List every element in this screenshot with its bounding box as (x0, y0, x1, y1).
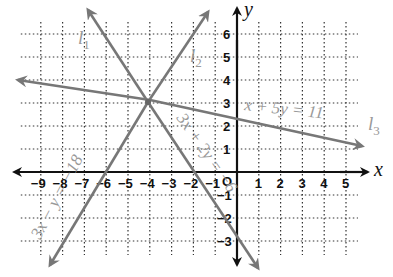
x-tick-label: 1 (255, 176, 262, 191)
line-l1 (88, 10, 148, 102)
x-tick-label: 4 (320, 176, 328, 191)
y-tick-label: 1 (223, 142, 230, 157)
x-tick-label: −4 (140, 176, 156, 191)
x-axis-label: x (373, 158, 383, 180)
y-tick-label: 2 (223, 119, 230, 134)
x-tick-label: −3 (162, 176, 177, 191)
x-tick-label: 5 (342, 176, 349, 191)
label-l2: l2 (190, 45, 202, 70)
y-axis-label: y (242, 0, 253, 21)
x-tick-label: 2 (277, 176, 284, 191)
x-tick-label: −9 (31, 176, 46, 191)
x-tick-label: −2 (183, 176, 198, 191)
x-tick-label: 3 (298, 176, 305, 191)
y-tick-label: 4 (223, 73, 231, 88)
y-tick-label: 6 (223, 27, 230, 42)
y-tick-label: −3 (217, 234, 232, 249)
equation-l3: x + 5y = 11 (243, 95, 325, 122)
x-tick-label: −5 (118, 176, 133, 191)
label-l3: l3 (368, 113, 380, 138)
coordinate-plane: −9−8−7−6−5−4−3−2−112345654321−1−2−3 x y … (0, 0, 393, 277)
intersection-point (145, 99, 151, 105)
y-tick-label: 3 (223, 96, 230, 111)
y-tick-label: 5 (223, 50, 230, 65)
equation-l2: 3x − y = −18 (26, 151, 87, 242)
